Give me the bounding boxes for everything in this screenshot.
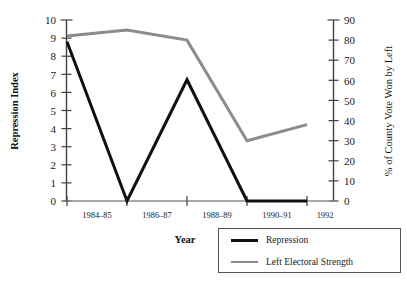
left-tick-label: 4 [51, 123, 57, 135]
left-tick-label: 0 [51, 195, 57, 207]
right-axis-tick-labels: 90 80 70 60 50 40 30 20 10 0 [344, 14, 356, 207]
right-tick-label: 0 [344, 195, 350, 207]
legend-item-left-electoral-strength: Left Electoral Strength [219, 251, 400, 273]
left-tick-label: 9 [51, 32, 57, 44]
x-tick-label: 1988–89 [202, 211, 231, 220]
series-line-left-electoral-strength [67, 30, 307, 141]
left-tick-label: 2 [51, 159, 57, 171]
right-tick-label: 70 [344, 54, 356, 66]
legend-label-repression: Repression [266, 235, 308, 245]
left-tick-label: 6 [51, 87, 57, 99]
left-axis: 10 9 8 7 6 5 4 3 2 1 0 Repression Index [9, 14, 73, 207]
legend-swatch-repression [231, 239, 258, 242]
left-tick-label: 10 [45, 14, 57, 26]
left-tick-label: 1 [51, 177, 57, 189]
chart-legend: Repression Left Electoral Strength [218, 228, 401, 273]
right-tick-label: 90 [344, 14, 356, 26]
x-tick-label: 1992 [317, 211, 334, 220]
left-tick-label: 3 [51, 141, 57, 153]
plot-area [67, 30, 307, 201]
right-tick-label: 50 [344, 95, 356, 107]
right-tick-label: 80 [344, 34, 356, 46]
left-tick-label: 5 [51, 105, 57, 117]
x-axis-title: Year [175, 234, 196, 245]
legend-swatch-left-electoral-strength [231, 261, 258, 263]
legend-label-left-electoral-strength: Left Electoral Strength [266, 257, 353, 267]
x-tick-label: 1986–87 [142, 211, 171, 220]
right-tick-label: 40 [344, 115, 356, 127]
left-axis-tick-labels: 10 9 8 7 6 5 4 3 2 1 0 [45, 14, 57, 207]
x-tick-label: 1984–85 [82, 211, 111, 220]
legend-item-repression: Repression [219, 229, 400, 251]
series-line-repression [67, 42, 307, 201]
left-tick-label: 8 [51, 50, 57, 62]
right-tick-label: 10 [344, 175, 356, 187]
right-axis: 90 80 70 60 50 40 30 20 10 0 % of County… [328, 14, 395, 207]
x-axis-tick-labels: 1984–85 1986–87 1988–89 1990–91 1992 [82, 211, 333, 220]
right-tick-label: 60 [344, 75, 356, 87]
chart-figure: 10 9 8 7 6 5 4 3 2 1 0 Repression Index [0, 0, 407, 282]
right-tick-label: 30 [344, 135, 356, 147]
x-tick-label: 1990–91 [262, 211, 291, 220]
right-tick-label: 20 [344, 155, 356, 167]
right-axis-title: % of County Vote Won by Left [383, 46, 394, 176]
left-axis-title: Repression Index [9, 71, 20, 149]
left-tick-label: 7 [51, 69, 57, 81]
